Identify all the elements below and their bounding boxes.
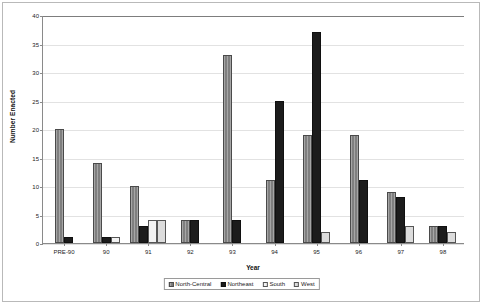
bars [429, 16, 456, 243]
y-tick-label: 5 [36, 213, 39, 219]
y-tick-mark [40, 244, 43, 245]
bar-group: 94 [253, 16, 295, 243]
bar [157, 220, 166, 243]
x-tick-mark [359, 243, 360, 246]
bar [190, 220, 199, 243]
bar-group: 97 [380, 16, 422, 243]
bars [55, 16, 73, 243]
y-axis-title: Number Enacted [9, 62, 16, 172]
y-tick-label: 10 [32, 184, 39, 190]
x-tick-label: 97 [397, 249, 404, 255]
bar [111, 237, 120, 243]
bar-group: 90 [85, 16, 127, 243]
bar-group: 92 [169, 16, 211, 243]
bars [93, 16, 120, 243]
bar-group: PRE-90 [43, 16, 85, 243]
bar [139, 226, 148, 243]
y-tick-label: 15 [32, 156, 39, 162]
legend-swatch-icon [262, 282, 267, 287]
y-tick-label: 0 [36, 241, 39, 247]
bar [130, 186, 139, 243]
chart-legend: North-CentralNortheastSouthWest [163, 278, 319, 290]
bar-groups: PRE-90909192939495969798 [43, 16, 464, 243]
legend-label: South [269, 281, 285, 287]
x-tick-mark [443, 243, 444, 246]
bar [321, 232, 330, 243]
bar [438, 226, 447, 243]
bar-group: 96 [338, 16, 380, 243]
legend-label: North-Central [175, 281, 211, 287]
bars [181, 16, 199, 243]
x-tick-mark [401, 243, 402, 246]
bar [447, 232, 456, 243]
bar [429, 226, 438, 243]
bar [232, 220, 241, 243]
legend-item[interactable]: South [262, 281, 285, 287]
legend-label: West [301, 281, 315, 287]
bar [312, 32, 321, 243]
bar-group: 95 [296, 16, 338, 243]
bar [266, 180, 275, 243]
y-tick-label: 40 [32, 13, 39, 19]
legend-item[interactable]: West [294, 281, 315, 287]
bar [359, 180, 368, 243]
bar [64, 237, 73, 243]
bar [405, 226, 414, 243]
legend-label: Northeast [227, 281, 253, 287]
x-tick-mark [148, 243, 149, 246]
y-tick-label: 30 [32, 70, 39, 76]
bar [93, 163, 102, 243]
bars [350, 16, 368, 243]
x-tick-mark [64, 243, 65, 246]
y-tick-label: 25 [32, 99, 39, 105]
plot-area: 0510152025303540 PRE-9090919293949596979… [42, 16, 464, 244]
bar [275, 101, 284, 244]
x-tick-mark [232, 243, 233, 246]
x-tick-label: 95 [313, 249, 320, 255]
y-tick-label: 20 [32, 127, 39, 133]
legend-item[interactable]: Northeast [220, 281, 253, 287]
bars [303, 16, 330, 243]
x-tick-label: 90 [103, 249, 110, 255]
bar [223, 55, 232, 243]
bars [130, 16, 166, 243]
legend-swatch-icon [294, 282, 299, 287]
bars [223, 16, 241, 243]
x-tick-label: 92 [187, 249, 194, 255]
bar [387, 192, 396, 243]
x-tick-label: 91 [145, 249, 152, 255]
x-tick-label: 98 [440, 249, 447, 255]
bar-group: 91 [127, 16, 169, 243]
x-tick-mark [275, 243, 276, 246]
legend-swatch-icon [168, 282, 173, 287]
bar [350, 135, 359, 243]
legend-item[interactable]: North-Central [168, 281, 211, 287]
bar-chart: Number Enacted 0510152025303540 PRE-9090… [0, 0, 483, 305]
bar-group: 93 [211, 16, 253, 243]
bar [396, 197, 405, 243]
bar [181, 220, 190, 243]
bar [148, 220, 157, 243]
bar [303, 135, 312, 243]
y-tick-label: 35 [32, 42, 39, 48]
bar [55, 129, 64, 243]
x-tick-label: 93 [229, 249, 236, 255]
bars [387, 16, 414, 243]
x-tick-label: 94 [271, 249, 278, 255]
x-axis-title: Year [42, 264, 464, 271]
x-tick-label: PRE-90 [54, 249, 75, 255]
legend-swatch-icon [220, 282, 225, 287]
x-tick-mark [106, 243, 107, 246]
x-tick-mark [317, 243, 318, 246]
x-tick-mark [190, 243, 191, 246]
bars [266, 16, 284, 243]
x-tick-label: 96 [355, 249, 362, 255]
bar-group: 98 [422, 16, 464, 243]
